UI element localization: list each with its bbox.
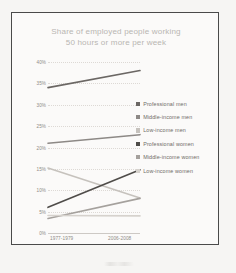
legend-swatch-icon xyxy=(136,128,140,132)
legend-item[interactable]: Low-income men xyxy=(136,124,220,137)
chart-page: Share of employed people working 50 hour… xyxy=(0,0,236,273)
chart-legend: Professional menMiddle-income menLow-inc… xyxy=(136,97,220,177)
y-axis-tick-label: 30% xyxy=(37,102,47,107)
legend-item-label: Low-income men xyxy=(143,127,186,133)
legend-item[interactable]: Professional men xyxy=(136,97,220,110)
x-axis-line xyxy=(48,233,140,234)
y-axis-tick-label: 15% xyxy=(37,166,47,171)
legend-swatch-icon xyxy=(136,115,140,119)
series-line xyxy=(48,135,140,144)
legend-item-label: Low-income women xyxy=(143,168,193,174)
y-axis-tick-label: 20% xyxy=(37,145,47,150)
y-axis-tick-label: 25% xyxy=(37,124,47,129)
legend-item-label: Middle-income men xyxy=(143,114,192,120)
y-axis-tick-label: 5% xyxy=(39,209,46,214)
legend-item[interactable]: Middle-income men xyxy=(136,110,220,123)
series-line xyxy=(48,168,140,198)
legend-item[interactable]: Middle-income women xyxy=(136,151,220,164)
chart-title-line-2: 50 hours or more per week xyxy=(30,38,202,49)
y-axis-tick-label: 10% xyxy=(37,188,47,193)
legend-swatch-icon xyxy=(136,142,140,146)
chart-title: Share of employed people working 50 hour… xyxy=(30,27,202,48)
x-axis-tick-label: 1977-1979 xyxy=(50,236,73,241)
legend-item[interactable]: Low-income women xyxy=(136,164,220,177)
legend-item-label: Professional men xyxy=(143,101,187,107)
x-axis-tick-label: 2006-2008 xyxy=(108,236,131,241)
series-lines xyxy=(48,62,140,233)
x-axis-labels: 1977-19792006-2008 xyxy=(40,236,160,246)
legend-swatch-icon xyxy=(136,155,140,159)
y-axis-tick-label: 35% xyxy=(37,81,47,86)
y-axis-tick-label: 40% xyxy=(37,60,47,65)
y-axis-labels: 0%5%10%15%20%25%30%35%40% xyxy=(24,62,46,233)
page-artifact xyxy=(104,262,134,266)
legend-item[interactable]: Professional women xyxy=(136,137,220,150)
plot-area xyxy=(48,62,140,233)
series-line xyxy=(48,71,140,88)
y-axis-tick-label: 0% xyxy=(39,231,46,236)
legend-item-label: Middle-income women xyxy=(143,154,199,160)
chart-title-line-1: Share of employed people working xyxy=(51,27,180,36)
legend-swatch-icon xyxy=(136,169,140,173)
legend-item-label: Professional women xyxy=(143,141,194,147)
legend-swatch-icon xyxy=(136,102,140,106)
